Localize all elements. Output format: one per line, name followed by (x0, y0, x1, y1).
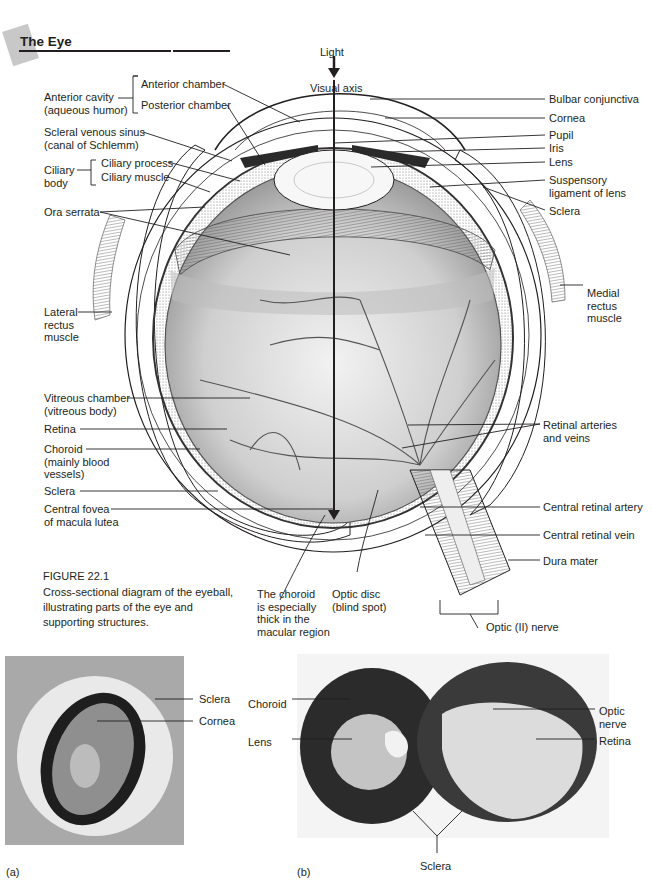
label-light: Light (320, 46, 344, 59)
label-choroid-thick-macular: The choroid is especially thick in the m… (257, 588, 330, 638)
label-retinal-arteries-veins: Retinal arteries and veins (543, 419, 617, 444)
photo-b-leaders (280, 640, 652, 880)
label-medial-rectus-muscle: Medial rectus muscle (587, 287, 622, 325)
photo-b-label-retina: Retina (599, 735, 631, 748)
label-lateral-rectus-muscle: Lateral rectus muscle (44, 306, 79, 344)
photo-a-label-sclera: Sclera (199, 693, 230, 706)
label-central-retinal-artery: Central retinal artery (543, 501, 643, 514)
label-central-retinal-vein: Central retinal vein (543, 529, 635, 542)
label-posterior-chamber: Posterior chamber (141, 99, 231, 112)
label-ciliary-muscle: Ciliary muscle (101, 171, 169, 184)
label-ora-serrata: Ora serrata (44, 206, 100, 219)
figure-number: FIGURE 22.1 (43, 570, 109, 582)
photo-b-label-lens: Lens (248, 736, 272, 749)
label-optic-disc: Optic disc (blind spot) (332, 588, 386, 613)
photo-a-leaders (0, 640, 290, 780)
label-iris: Iris (549, 142, 564, 155)
label-dura-mater: Dura mater (543, 555, 598, 568)
label-visual-axis: Visual axis (310, 82, 362, 95)
label-anterior-cavity: Anterior cavity (aqueous humor) (44, 91, 128, 116)
label-lens: Lens (549, 156, 573, 169)
label-sclera-right: Sclera (549, 205, 580, 218)
panel-letter-b: (b) (297, 866, 310, 878)
photo-b-label-optic-nerve: Optic nerve (599, 705, 652, 730)
label-bulbar-conjunctiva: Bulbar conjunctiva (549, 93, 639, 106)
label-central-fovea: Central fovea of macula lutea (44, 503, 119, 528)
label-ciliary-body: Ciliary body (44, 164, 75, 189)
label-scleral-venous-sinus: Scleral venous sinus (canal of Schlemm) (44, 126, 145, 151)
label-cornea: Cornea (549, 112, 585, 125)
label-pupil: Pupil (549, 129, 573, 142)
label-retina: Retina (44, 423, 76, 436)
panel-letter-a: (a) (6, 866, 19, 878)
label-sclera-left: Sclera (44, 485, 75, 498)
label-vitreous-chamber: Vitreous chamber (vitreous body) (44, 392, 130, 417)
label-choroid: Choroid (mainly blood vessels) (44, 443, 109, 481)
label-optic-nerve: Optic (II) nerve (486, 621, 559, 634)
label-ciliary-process: Ciliary process (101, 157, 173, 170)
photo-b-label-sclera: Sclera (420, 860, 451, 873)
photo-a-label-cornea: Cornea (199, 715, 235, 728)
label-anterior-chamber: Anterior chamber (141, 78, 225, 91)
photo-b-label-choroid: Choroid (248, 698, 287, 711)
label-suspensory-ligament: Suspensory ligament of lens (549, 174, 626, 199)
figure-caption: Cross-sectional diagram of the eyeball, … (43, 585, 243, 630)
